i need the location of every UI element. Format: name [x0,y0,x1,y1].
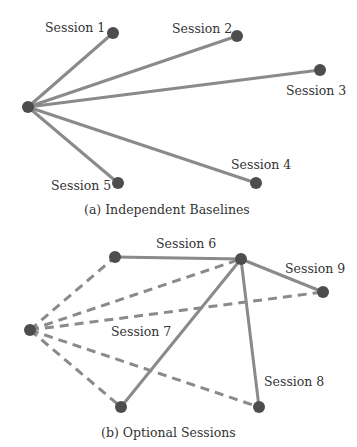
dashed-root-session8 [30,330,259,407]
session3-node [314,64,326,76]
edge-session8 [241,259,259,407]
session2-node [231,30,243,42]
caption-b: (b) Optional Sessions [101,425,236,440]
edge-root-session5 [28,107,118,183]
caption-a: (a) Independent Baselines [84,202,250,217]
dashed-root-session6 [30,257,115,330]
diagram-canvas: Session 1 Session 2 Session 3 Session 4 … [0,0,357,447]
session1-label: Session 1 [45,20,105,35]
session3-label: Session 3 [286,83,346,98]
edge-root-session3 [28,70,320,107]
edge-session6 [115,257,241,259]
root-node-a [22,101,34,113]
session1-node [107,27,119,39]
hub-node [235,253,247,265]
session5-label: Session 5 [51,178,111,193]
session8-node [253,401,265,413]
root-node-b [24,324,36,336]
session2-label: Session 2 [172,21,232,36]
session7-node [115,401,127,413]
edge-root-session1 [28,33,113,107]
session6-start-node [109,251,121,263]
session8-label: Session 8 [264,374,324,389]
session9-node [317,286,329,298]
dashed-root-session9 [30,292,323,330]
edge-root-session4 [28,107,256,183]
session4-label: Session 4 [231,157,291,172]
session5-node [112,177,124,189]
session6-label: Session 6 [156,236,216,251]
session4-node [250,177,262,189]
session-diagrams: Session 1 Session 2 Session 3 Session 4 … [0,0,357,447]
edge-root-session2 [28,36,237,107]
session7-label: Session 7 [111,324,171,339]
dashed-root-hub [30,259,241,330]
session9-label: Session 9 [285,261,345,276]
dashed-root-session7 [30,330,121,407]
